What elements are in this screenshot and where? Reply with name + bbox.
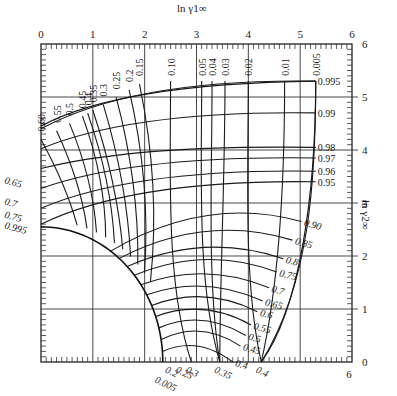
curve-a-label: 0.25 bbox=[111, 72, 122, 89]
curve-a-label: 0.005 bbox=[311, 53, 322, 76]
curve-a bbox=[211, 81, 220, 362]
curve-family-b bbox=[41, 81, 316, 362]
curve-b-label: 0.96 bbox=[318, 166, 336, 177]
curve-a-label: 0.04 bbox=[207, 58, 218, 76]
curve-b-label: 0.97 bbox=[318, 153, 336, 164]
x-tick-label: 0 bbox=[38, 28, 44, 40]
curve-a-bottom-label: 0.35 bbox=[213, 364, 234, 381]
curve-a-label: 0.55 bbox=[52, 105, 63, 123]
curve-a-label: 0.10 bbox=[166, 58, 177, 76]
curve-b bbox=[41, 113, 316, 149]
curve-a bbox=[139, 84, 153, 282]
curve-b-label: 0.85 bbox=[294, 235, 314, 250]
curve-b bbox=[159, 320, 246, 335]
curve-a-label: 0.5 bbox=[65, 103, 76, 116]
y-tick-label: 3 bbox=[362, 197, 368, 209]
curve-a bbox=[261, 81, 284, 362]
y-tick-label: 2 bbox=[362, 250, 368, 262]
curve-b bbox=[156, 309, 251, 325]
curve-a-label: 0.60 bbox=[36, 114, 47, 132]
x-tick-label: 3 bbox=[194, 28, 200, 40]
curve-b-label: 0.8 bbox=[285, 254, 300, 268]
curve-b-label: 0.95 bbox=[318, 177, 336, 188]
curve-b-label: 0.75 bbox=[278, 267, 298, 282]
curve-labels-a: 0.600.550.50.450.40.350.30.250.20.150.10… bbox=[36, 53, 322, 393]
curve-a-label: 0.2 bbox=[124, 69, 135, 82]
curve-b-left-label: 0.995 bbox=[3, 220, 28, 236]
y-tick-label: 0 bbox=[362, 356, 368, 368]
curve-b-label: 0.4 bbox=[234, 357, 249, 371]
curve-a bbox=[220, 81, 225, 362]
x-tick-label: 2 bbox=[142, 28, 148, 40]
curve-b-left-label: 0.65 bbox=[3, 174, 23, 189]
y-tick-label: 4 bbox=[362, 144, 368, 156]
curve-a-label: 0.03 bbox=[220, 58, 231, 76]
x-bottom-tick-label: 6 bbox=[346, 368, 352, 380]
curve-a-label: 0.02 bbox=[243, 58, 254, 75]
x-tick-label: 4 bbox=[246, 28, 252, 40]
curve-b bbox=[41, 158, 316, 189]
curve-b bbox=[134, 259, 276, 275]
curve-b-left-label: 0.7 bbox=[3, 196, 19, 210]
y-tick-label: 5 bbox=[362, 91, 368, 103]
curve-a bbox=[201, 81, 220, 362]
y-tick-label: 6 bbox=[362, 38, 368, 50]
curve-b-label: 0.995 bbox=[318, 76, 341, 87]
curve-a-label: 0.3 bbox=[98, 84, 109, 97]
curve-a bbox=[116, 97, 138, 264]
curve-b-label: 0.6 bbox=[259, 307, 274, 321]
curve-a-label: 0.35 bbox=[88, 85, 99, 103]
nomograph-chart: 012345601234566 0.600.550.50.450.40.350.… bbox=[0, 0, 397, 396]
y-tick-label: 1 bbox=[362, 303, 368, 315]
curve-b-label: 0.98 bbox=[318, 142, 336, 153]
x-tick-label: 5 bbox=[297, 28, 303, 40]
curve-b bbox=[127, 247, 283, 266]
curve-b bbox=[147, 286, 263, 301]
curve-a-label: 0.01 bbox=[280, 58, 291, 76]
x-tick-label: 1 bbox=[90, 28, 96, 40]
curve-b-label: 0.99 bbox=[318, 108, 336, 119]
curve-b bbox=[161, 331, 240, 346]
curve-a-label: 0.15 bbox=[134, 59, 145, 77]
curve-a-bottom-label: 0.4 bbox=[254, 364, 270, 379]
curve-b bbox=[111, 213, 302, 251]
curve-a-label: 0.05 bbox=[197, 58, 208, 76]
x-tick-label: 6 bbox=[349, 28, 355, 40]
